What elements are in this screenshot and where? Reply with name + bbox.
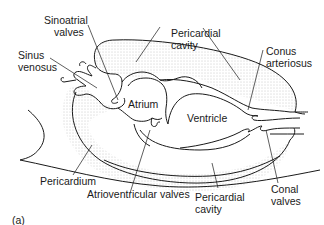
panel-label: (a) bbox=[12, 214, 25, 225]
label-pericardium: Pericardium bbox=[40, 175, 96, 187]
label-sinoatrial-valves: Sinoatrial valves bbox=[44, 14, 88, 38]
heart-diagram: Sinoatrial valves Sinus venosus Pericard… bbox=[0, 0, 324, 225]
label-conus-arteriosus: Conus arteriosus bbox=[266, 45, 312, 69]
label-pericardial-cavity-top: Pericardial cavity bbox=[171, 27, 221, 51]
label-sinus-venosus: Sinus venosus bbox=[18, 49, 57, 73]
vein-stub-1 bbox=[61, 78, 76, 82]
ventricle-floor bbox=[140, 130, 250, 150]
label-conal-valves: Conal valves bbox=[271, 183, 301, 207]
label-atrioventricular-valves: Atrioventricular valves bbox=[87, 188, 190, 200]
conus-valve-upper bbox=[252, 115, 300, 120]
label-ventricle: Ventricle bbox=[187, 112, 227, 124]
ventricle-floor-inner bbox=[134, 124, 150, 146]
label-pericardial-cavity-bottom: Pericardial cavity bbox=[195, 191, 245, 215]
left-curve bbox=[20, 110, 44, 160]
conus-lower bbox=[180, 126, 300, 148]
vein-stub-2 bbox=[80, 62, 86, 66]
label-atrium: Atrium bbox=[128, 98, 158, 110]
